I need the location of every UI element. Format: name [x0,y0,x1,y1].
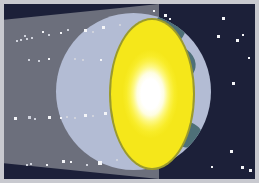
star-in-space [232,82,235,85]
star-in-space [153,10,155,12]
star-in-shadow-cone [119,24,121,26]
star-in-shadow-cone [84,114,87,117]
star-in-shadow-cone [46,164,48,166]
star-in-space [242,34,244,36]
star-in-shadow-cone [66,116,68,118]
star-in-shadow-cone [102,26,105,29]
star-in-space [169,18,171,20]
star-in-shadow-cone [67,29,69,31]
star-in-shadow-cone [60,32,62,34]
star-in-shadow-cone [42,31,44,33]
star-in-shadow-cone [48,34,50,36]
star-in-space [222,17,225,20]
star-in-shadow-cone [62,160,65,163]
star-in-shadow-cone [104,112,107,115]
star-in-shadow-cone [30,163,32,165]
star-in-shadow-cone [92,31,94,33]
star-in-shadow-cone [28,59,30,61]
illustration-canvas [0,0,259,183]
star-in-shadow-cone [31,37,33,39]
star-in-shadow-cone [74,58,76,60]
star-in-shadow-cone [26,38,28,40]
star-in-shadow-cone [14,117,17,120]
star-in-space [217,35,220,38]
star-in-shadow-cone [86,164,88,166]
star-in-shadow-cone [48,58,50,60]
star-in-shadow-cone [92,115,94,117]
star-in-shadow-cone [38,60,40,62]
star-in-space [248,57,250,59]
star-in-shadow-cone [16,40,18,42]
star-in-shadow-cone [60,117,62,119]
star-in-space [249,169,252,172]
star-in-shadow-cone [34,118,36,120]
star-in-shadow-cone [20,39,22,41]
star-in-space [241,166,244,169]
star-in-shadow-cone [28,116,31,119]
star-in-shadow-cone [70,161,72,163]
star-in-shadow-cone [116,159,118,161]
solar-glow [111,20,193,168]
star-in-shadow-cone [48,116,51,119]
star-in-space [164,14,167,17]
star-in-space [236,39,239,42]
star-in-shadow-cone [82,59,84,61]
star-in-shadow-cone [74,117,76,119]
star-in-shadow-cone [24,35,26,37]
star-in-shadow-cone [98,161,102,165]
star-in-space [211,166,213,168]
star-in-shadow-cone [100,59,102,61]
star-in-shadow-cone [26,164,28,166]
star-in-shadow-cone [84,29,87,32]
star-in-space [230,150,233,153]
space-background [4,4,255,179]
